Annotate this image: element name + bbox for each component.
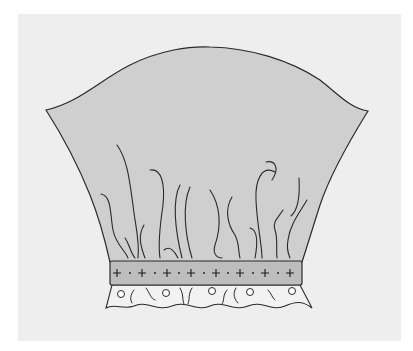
sleeve-body: [46, 47, 368, 262]
sleeve-diagram: [0, 0, 413, 351]
